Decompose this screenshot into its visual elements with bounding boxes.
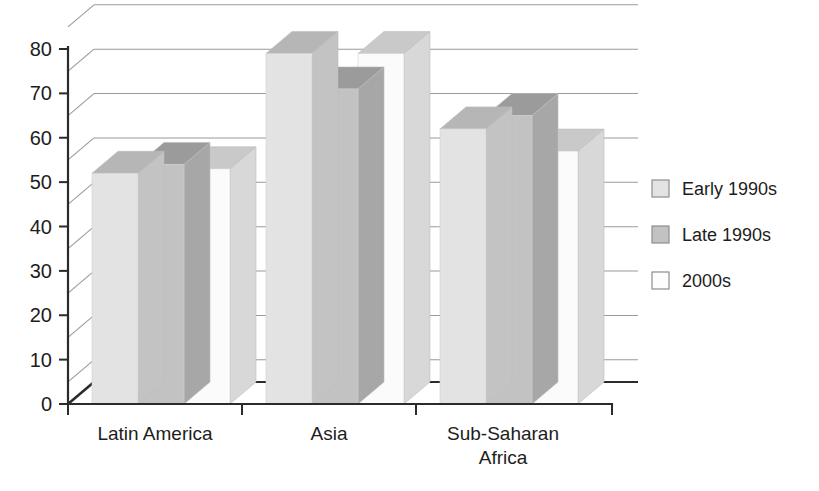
gridline-riser <box>68 227 94 249</box>
y-tick-label: 80 <box>30 38 52 60</box>
gridline-riser <box>68 138 94 160</box>
bar-front-face <box>440 129 486 404</box>
y-tick-label: 20 <box>30 304 52 326</box>
bar-side-face <box>230 147 256 404</box>
y-tick-labels: 80706050403020100 <box>30 38 52 415</box>
bar <box>440 107 512 404</box>
chart-legend: Early 1990sLate 1990s2000s <box>652 179 777 291</box>
bar <box>92 151 164 404</box>
legend-swatch <box>652 226 669 243</box>
category-label: Asia <box>311 423 348 444</box>
y-tick-label: 30 <box>30 260 52 282</box>
y-tick-label: 40 <box>30 216 52 238</box>
chart-canvas: 80706050403020100 Latin AmericaAsiaSub-S… <box>0 0 819 491</box>
category-label: Sub-Saharan <box>447 423 559 444</box>
bar-side-face <box>532 94 558 404</box>
bar-side-face <box>358 67 384 404</box>
bar-side-face <box>138 151 164 404</box>
floor-depth-edge <box>68 382 94 404</box>
legend-swatch <box>652 180 669 197</box>
category-label-line2: Africa <box>479 447 528 468</box>
category-label: Latin America <box>97 423 213 444</box>
y-tick-label: 0 <box>41 393 52 415</box>
bar-front-face <box>92 173 138 404</box>
gridline-riser <box>68 49 94 71</box>
legend-item[interactable]: Late 1990s <box>652 225 771 245</box>
bar-side-face <box>578 129 604 404</box>
legend-label: 2000s <box>682 271 731 291</box>
legend-swatch <box>652 272 669 289</box>
gridline-riser <box>68 271 94 293</box>
bar-side-face <box>404 31 430 404</box>
gridline-riser <box>68 360 94 382</box>
y-tick-label: 60 <box>30 127 52 149</box>
y-tick-label: 10 <box>30 349 52 371</box>
y-tick-label: 50 <box>30 171 52 193</box>
bar-side-face <box>486 107 512 404</box>
legend-label: Early 1990s <box>682 179 777 199</box>
gridline-riser <box>68 5 94 27</box>
bar-series-group <box>92 31 604 404</box>
bar-side-face <box>184 142 210 404</box>
gridline-riser <box>68 315 94 337</box>
bar-front-face <box>266 53 312 404</box>
bar <box>266 31 338 404</box>
legend-item[interactable]: Early 1990s <box>652 179 777 199</box>
legend-item[interactable]: 2000s <box>652 271 731 291</box>
legend-label: Late 1990s <box>682 225 771 245</box>
gridline-riser <box>68 182 94 204</box>
gridline-riser <box>68 94 94 116</box>
y-tick-label: 70 <box>30 82 52 104</box>
category-axis-labels: Latin AmericaAsiaSub-SaharanAfrica <box>97 423 559 468</box>
bar-chart-figure: 80706050403020100 Latin AmericaAsiaSub-S… <box>0 0 819 491</box>
bar-side-face <box>312 31 338 404</box>
